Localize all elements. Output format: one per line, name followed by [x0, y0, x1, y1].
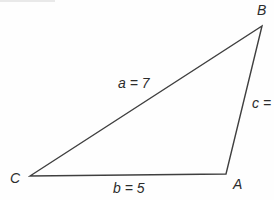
vertex-label-A: A	[232, 176, 242, 192]
side-label-c: c =	[252, 95, 271, 111]
vertex-label-C: C	[10, 170, 21, 186]
side-label-a: a = 7	[118, 75, 151, 91]
triangle-diagram: B C A a = 7 b = 5 c =	[0, 0, 274, 200]
triangle-svg: B C A a = 7 b = 5 c =	[0, 0, 274, 200]
side-label-b: b = 5	[113, 180, 145, 196]
triangle-outline	[30, 26, 262, 176]
vertex-label-B: B	[257, 2, 266, 18]
